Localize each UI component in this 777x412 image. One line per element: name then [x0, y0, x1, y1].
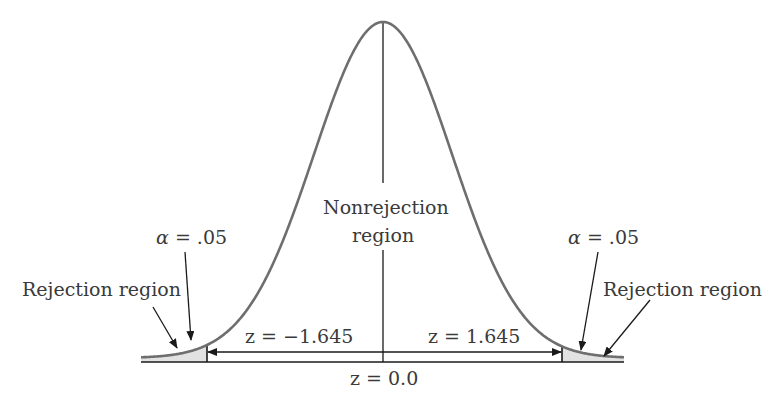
right-critical-z-label: z = 1.645: [428, 327, 520, 346]
nonrejection-label-line2: region: [323, 221, 443, 249]
center-z-label: z = 0.0: [350, 369, 418, 388]
alpha-symbol: α: [568, 226, 581, 248]
left-rejection-label: Rejection region: [22, 280, 181, 299]
right-alpha-text: = .05: [581, 226, 639, 248]
left-critical-z-label: z = −1.645: [245, 327, 353, 346]
left-alpha-text: = .05: [169, 226, 227, 248]
right-rejection-label: Rejection region: [603, 280, 762, 299]
left-alpha-label: α = .05: [156, 228, 227, 247]
nonrejection-label: Nonrejection region: [323, 193, 443, 249]
left-rejection-pointer-arrow: [153, 307, 177, 348]
left-alpha-pointer-arrow: [185, 252, 191, 340]
right-alpha-label: α = .05: [568, 228, 639, 247]
alpha-symbol: α: [156, 226, 169, 248]
right-rejection-pointer-arrow: [604, 300, 650, 356]
nonrejection-label-line1: Nonrejection: [323, 193, 443, 221]
normal-distribution-figure: α = .05 Rejection region Nonrejection re…: [0, 0, 777, 412]
right-alpha-pointer-arrow: [581, 252, 598, 350]
